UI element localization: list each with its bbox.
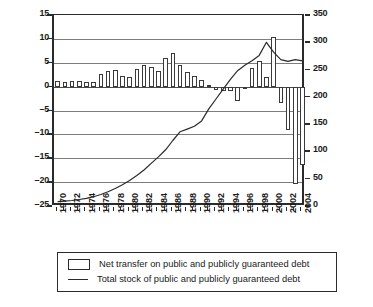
x-axis-tickmark: [164, 207, 165, 211]
y-axis-left-tickmark: [47, 38, 52, 40]
x-axis-tickmark: [70, 207, 71, 211]
y-axis-left-tickmark: [47, 110, 52, 112]
y-axis-right-tick-label: 250: [313, 64, 347, 73]
y-axis-left-tickmark: [47, 133, 52, 135]
x-axis-tickmark: [250, 207, 251, 211]
y-axis-right-tick-label: 150: [313, 118, 347, 127]
y-axis-left-tick-label: 5: [19, 57, 49, 66]
x-axis-tickmark: [236, 207, 237, 211]
legend-label-net-transfer: Net transfer on public and publicly guar…: [99, 260, 309, 269]
y-axis-right-tick-label: 200: [313, 91, 347, 100]
y-axis-left-tickmark: [47, 14, 52, 16]
total-stock-line: [58, 42, 303, 201]
x-axis-tickmark: [264, 207, 265, 211]
x-axis-tickmark: [221, 207, 222, 211]
y-axis-right-tick-label: 300: [313, 36, 347, 45]
y-axis-left-tickmark: [47, 181, 52, 183]
x-axis-tickmark: [243, 207, 244, 211]
x-axis-tickmark: [200, 207, 201, 211]
x-axis-tickmark: [149, 207, 150, 211]
x-axis-tickmark: [156, 207, 157, 211]
y-axis-left-tick-label: 10: [19, 33, 49, 42]
x-axis-tickmark: [99, 207, 100, 211]
x-axis-tickmark: [63, 207, 64, 211]
y-axis-right-tickmark: [305, 41, 310, 43]
legend-item-net-transfer: Net transfer on public and publicly guar…: [68, 259, 309, 270]
x-axis-tickmark: [113, 207, 114, 211]
chart-figure: –25–20–15–10–5051015 0501001502002503003…: [0, 0, 373, 307]
line-series-total-stock: [54, 15, 302, 203]
x-axis-tickmark: [128, 207, 129, 211]
y-axis-left-tickmark: [47, 157, 52, 159]
x-axis-tick-label: 2004: [304, 193, 313, 213]
x-axis-tickmark: [135, 207, 136, 211]
x-axis-tickmark: [300, 207, 301, 211]
x-axis-tickmark: [214, 207, 215, 211]
legend-item-total-stock: Total stock of public and publicly guara…: [68, 275, 300, 284]
y-axis-right-tickmark: [305, 178, 310, 180]
x-axis-tickmark: [171, 207, 172, 211]
x-axis: 1970197219741976197819801982198419861988…: [52, 207, 304, 253]
x-axis-tickmark: [257, 207, 258, 211]
x-axis-tickmark: [228, 207, 229, 211]
y-axis-right-tick-label: 50: [313, 173, 347, 182]
y-axis-right-tickmark: [305, 123, 310, 125]
y-axis-right-tickmark: [305, 96, 310, 98]
x-axis-tickmark: [178, 207, 179, 211]
x-axis-tickmark: [106, 207, 107, 211]
x-axis-tickmark: [142, 207, 143, 211]
plot-area: [52, 14, 304, 205]
y-axis-left-tickmark: [47, 86, 52, 88]
chart-legend: Net transfer on public and publicly guar…: [57, 252, 337, 292]
x-axis-tickmark: [286, 207, 287, 211]
x-axis-tickmark: [272, 207, 273, 211]
x-axis-tickmark: [84, 207, 85, 211]
y-axis-left-tick-label: 15: [19, 9, 49, 18]
x-axis-tickmark: [207, 207, 208, 211]
y-axis-left-tick-label: –25: [19, 200, 49, 209]
x-axis-tickmark: [77, 207, 78, 211]
legend-label-total-stock: Total stock of public and publicly guara…: [97, 275, 300, 284]
y-axis-left-tick-label: –10: [19, 128, 49, 137]
y-axis-right-tick-label: 0: [313, 200, 347, 209]
x-axis-tickmark: [192, 207, 193, 211]
x-axis-tickmark: [293, 207, 294, 211]
x-axis-tickmark: [120, 207, 121, 211]
y-axis-left-tickmark: [47, 62, 52, 64]
y-axis-right-tick-label: 100: [313, 145, 347, 154]
y-axis-left-tick-label: 0: [19, 81, 49, 90]
y-axis-right-tickmark: [305, 69, 310, 71]
x-axis-tickmark: [92, 207, 93, 211]
y-axis-left-tick-label: –15: [19, 152, 49, 161]
x-axis-tickmark: [56, 207, 57, 211]
y-axis-left-tick-label: –20: [19, 176, 49, 185]
x-axis-tickmark: [279, 207, 280, 211]
legend-line-swatch-icon: [68, 279, 88, 280]
y-axis-right-tickmark: [305, 150, 310, 152]
y-axis-right-tickmark: [305, 14, 310, 16]
y-axis-right-tick-label: 350: [313, 9, 347, 18]
x-axis-tickmark: [185, 207, 186, 211]
y-axis-left-tick-label: –5: [19, 105, 49, 114]
legend-box-swatch-icon: [68, 259, 90, 270]
